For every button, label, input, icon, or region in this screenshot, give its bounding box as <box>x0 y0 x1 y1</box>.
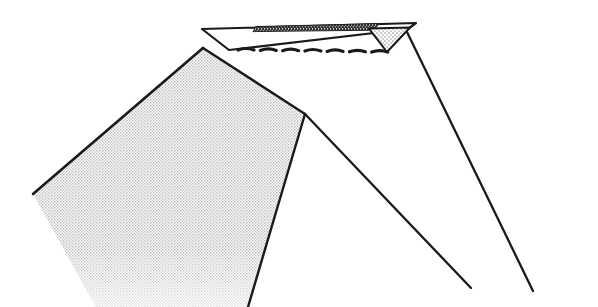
dash-segment <box>327 50 343 52</box>
beam-lines-group <box>305 30 533 291</box>
beam-line-inner-right <box>305 114 471 288</box>
right-stipple-triangle <box>369 28 410 53</box>
dash-segment <box>260 49 276 51</box>
right-stipple-triangle-shape <box>369 28 410 53</box>
dashed-arc-row <box>238 49 388 53</box>
dash-segment <box>349 50 365 52</box>
dash-segment <box>283 49 299 51</box>
figure-canvas <box>0 0 598 307</box>
dash-segment <box>372 51 388 53</box>
dash-segment <box>238 49 254 51</box>
technical-drawing-svg <box>0 0 598 307</box>
left-stipple-band <box>33 48 305 307</box>
top-dark-strip <box>253 24 379 32</box>
beam-line-outer-right <box>406 30 533 291</box>
dash-segment <box>305 50 321 52</box>
